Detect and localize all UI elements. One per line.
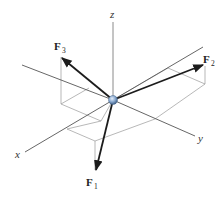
force-f2-label: F 2 bbox=[203, 53, 215, 68]
svg-text:F: F bbox=[54, 40, 61, 52]
svg-text:1: 1 bbox=[94, 182, 98, 191]
y-axis-label: y bbox=[197, 132, 203, 144]
force-f1-label: F 1 bbox=[86, 176, 98, 191]
svg-text:3: 3 bbox=[62, 46, 66, 55]
construction-box-f1 bbox=[67, 119, 155, 170]
svg-text:F: F bbox=[203, 53, 210, 65]
x-axis-label: x bbox=[14, 148, 20, 160]
force-f3-label: F 3 bbox=[54, 40, 66, 55]
construction-box-f3 bbox=[61, 57, 113, 121]
y-axis-negative bbox=[113, 47, 203, 100]
particle-sphere bbox=[109, 96, 118, 105]
z-axis-label: z bbox=[109, 8, 115, 20]
x-axis bbox=[22, 65, 113, 100]
force-f3-arrow bbox=[62, 58, 113, 100]
construction-box-f2 bbox=[113, 66, 205, 119]
force-diagram: z x y F 3 F 2 F 1 bbox=[0, 0, 223, 202]
x-axis-positive bbox=[25, 100, 113, 152]
y-axis bbox=[113, 100, 195, 136]
svg-text:F: F bbox=[86, 176, 93, 188]
svg-text:2: 2 bbox=[211, 59, 215, 68]
